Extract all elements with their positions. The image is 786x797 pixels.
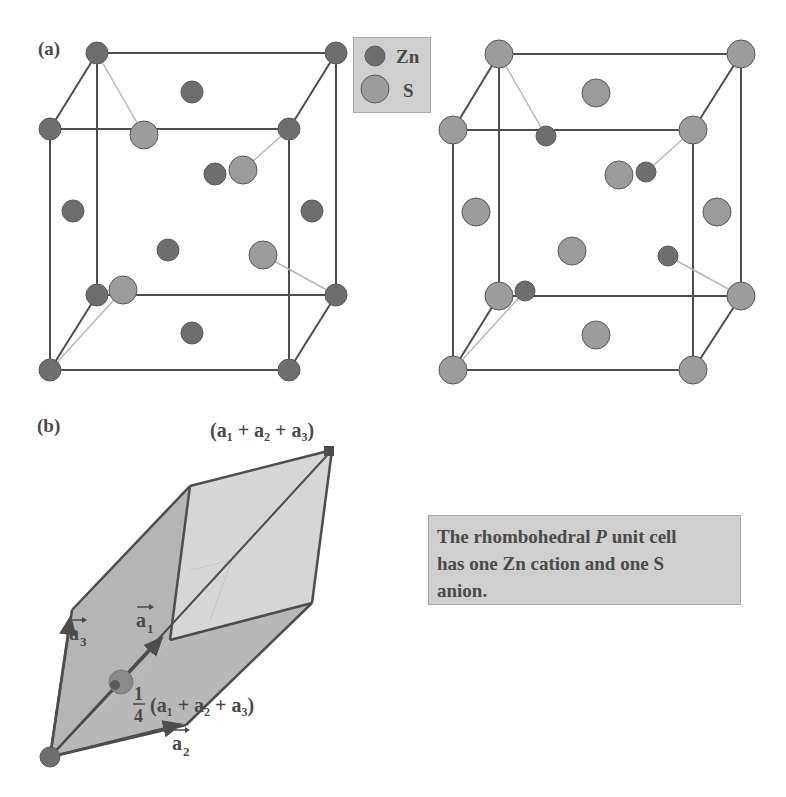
s-atom — [727, 40, 755, 68]
zn-atom — [62, 200, 84, 222]
legend-symbols: Zn S — [354, 38, 432, 114]
zn-atom — [157, 239, 179, 261]
zn-atom — [301, 200, 323, 222]
s-atom — [558, 237, 586, 265]
s-atom — [229, 156, 257, 184]
s-atom — [485, 40, 513, 68]
body-diagonal-label: (a₁ + a₂ + a₃) — [210, 419, 314, 442]
zn-atom — [39, 118, 61, 140]
zn-atom-origin — [40, 747, 60, 767]
caption-line-3: anion. — [437, 577, 732, 604]
legend: Zn S — [353, 37, 431, 113]
zn-atom — [39, 359, 61, 381]
s-atom — [249, 241, 277, 269]
legend-zn-label: Zn — [396, 46, 420, 67]
zn-atom — [181, 322, 203, 344]
s-atom — [109, 276, 137, 304]
s-atom — [679, 356, 707, 384]
caption-line-2: has one Zn cation and one S — [437, 550, 732, 577]
zn-atom — [515, 281, 535, 301]
zn-atom — [204, 163, 226, 185]
s-legend-icon — [361, 75, 389, 103]
s-atom — [462, 198, 490, 226]
label-a3: a — [69, 622, 79, 644]
zn-atom — [278, 359, 300, 381]
caption-line-1: The rhombohedral P unit cell — [437, 523, 732, 550]
svg-text:4: 4 — [134, 706, 143, 726]
zn-atom — [325, 284, 347, 306]
label-a2: a — [172, 732, 182, 754]
zn-atom — [181, 81, 203, 103]
left-cell-atoms — [39, 42, 347, 381]
svg-text:(a₁ + a₂ + a₃): (a₁ + a₂ + a₃) — [150, 694, 254, 717]
zn-atom — [86, 42, 108, 64]
svg-text:2: 2 — [183, 744, 190, 759]
s-atom — [582, 321, 610, 349]
rhombohedral-cell — [40, 446, 334, 767]
crystal-structure-figure: (a) — [0, 0, 786, 797]
s-atom — [439, 116, 467, 144]
svg-text:1: 1 — [147, 621, 154, 636]
svg-text:3: 3 — [80, 634, 87, 649]
zn-atom — [536, 126, 556, 146]
panel-b-label: (b) — [37, 415, 60, 437]
svg-text:1: 1 — [134, 684, 143, 704]
s-atom — [439, 356, 467, 384]
zn-atom — [278, 118, 300, 140]
s-atom — [727, 282, 755, 310]
s-atom — [605, 161, 633, 189]
s-atom — [130, 121, 158, 149]
panel-a-label: (a) — [38, 38, 60, 60]
s-atom — [703, 198, 731, 226]
label-a1: a — [136, 609, 146, 631]
s-atom — [582, 79, 610, 107]
zn-atom — [636, 162, 656, 182]
zn-atom — [658, 246, 678, 266]
legend-s-label: S — [403, 80, 414, 101]
s-atom — [485, 282, 513, 310]
zn-atom — [325, 42, 347, 64]
zn-atom — [86, 284, 108, 306]
caption-box: The rhombohedral P unit cell has one Zn … — [428, 515, 741, 605]
zn-legend-icon — [365, 46, 385, 66]
s-atom — [679, 116, 707, 144]
